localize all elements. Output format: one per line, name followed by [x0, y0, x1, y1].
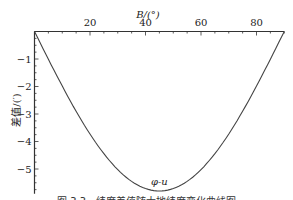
y-tick-label: −5: [17, 164, 32, 175]
chart: 20406080−1−2−3−4−5 B/(°) 差值/(′) φ-u: [0, 0, 293, 200]
series-annotation: φ-u: [151, 176, 168, 187]
y-tick-label: −2: [17, 81, 32, 92]
axes: 20406080−1−2−3−4−5: [17, 17, 285, 194]
y-axis-label: 差值/(′): [10, 93, 22, 127]
x-tick-label: 60: [195, 17, 208, 28]
series-line: [35, 32, 285, 192]
figure-caption: 图 3.3 纬度差值随大地纬度变化曲线图: [0, 193, 293, 200]
y-tick-label: −4: [17, 136, 32, 147]
x-axis-label: B/(°): [135, 9, 160, 20]
x-tick-label: 80: [250, 17, 263, 28]
x-tick-label: 20: [84, 17, 97, 28]
y-tick-label: −1: [17, 54, 32, 65]
